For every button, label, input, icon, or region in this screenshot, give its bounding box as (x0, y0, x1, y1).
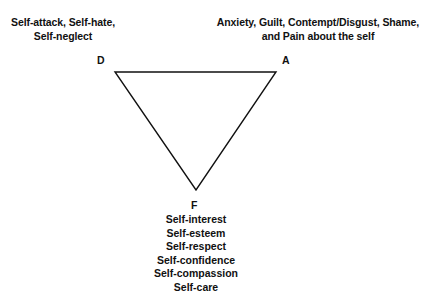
vertex-label-d: D (97, 54, 105, 66)
feeling-item: Self-care (136, 281, 256, 295)
feeling-item: Self-confidence (136, 254, 256, 268)
inverted-triangle (115, 72, 276, 190)
feeling-item: Self-compassion (136, 267, 256, 281)
defense-description-line-2: Self-neglect (0, 29, 126, 43)
feeling-item: Self-interest (136, 213, 256, 227)
defense-description-line-1: Self-attack, Self-hate, (0, 15, 126, 29)
anxiety-description-line-1: Anxiety, Guilt, Contempt/Disgust, Shame, (213, 15, 423, 29)
anxiety-description: Anxiety, Guilt, Contempt/Disgust, Shame,… (213, 15, 423, 43)
feeling-item: Self-esteem (136, 227, 256, 241)
feeling-item: Self-respect (136, 240, 256, 254)
vertex-label-a: A (282, 54, 290, 66)
feeling-list: Self-interest Self-esteem Self-respect S… (136, 213, 256, 295)
vertex-label-f: F (191, 199, 197, 211)
anxiety-description-line-2: and Pain about the self (213, 29, 423, 43)
defense-description: Self-attack, Self-hate, Self-neglect (0, 15, 126, 43)
